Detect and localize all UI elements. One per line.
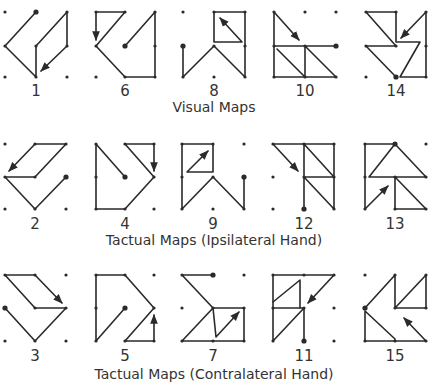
map-label: 2 (30, 215, 40, 233)
row-caption-ipsilateral: Tactual Maps (Ipsilateral Hand) (106, 232, 322, 248)
map-label: 13 (385, 215, 404, 233)
map-label: 15 (385, 347, 404, 365)
map-label: 7 (208, 347, 218, 365)
row-caption-contralateral: Tactual Maps (Contralateral Hand) (94, 366, 333, 382)
map-label: 14 (386, 82, 405, 100)
row-caption-visual: Visual Maps (172, 99, 255, 115)
map-label: 6 (120, 82, 130, 100)
map-label: 4 (120, 215, 130, 233)
map-label: 10 (295, 82, 314, 100)
grid-dots (2, 9, 427, 343)
map-label: 1 (31, 82, 41, 100)
map-label: 11 (294, 347, 313, 365)
map-label: 8 (209, 82, 219, 100)
map-label: 3 (30, 347, 40, 365)
map-label: 5 (120, 347, 130, 365)
map-label: 9 (208, 215, 218, 233)
map-label: 12 (294, 215, 313, 233)
